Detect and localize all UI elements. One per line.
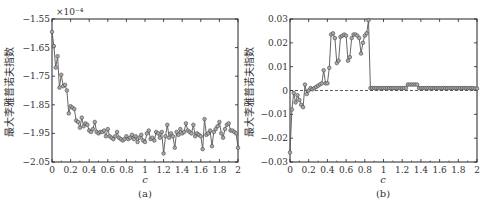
panel-a-caption: (a)	[138, 188, 152, 199]
panel-a-x-tick-label: 1.4	[175, 165, 190, 175]
panel-b-x-tick-label: 2	[474, 165, 480, 175]
panel-a-data-point	[156, 132, 160, 136]
panel-a-data-point	[184, 122, 188, 126]
panel-a-data-point	[158, 136, 162, 140]
panel-a-data-point	[177, 133, 181, 137]
panel-a-data-point	[179, 127, 183, 131]
panel-b-series	[288, 18, 479, 154]
panel-a-data-point	[199, 134, 203, 138]
panel-a-data-point	[76, 120, 80, 124]
panel-a-data-point	[219, 132, 223, 136]
panel-b-data-point	[346, 59, 350, 63]
panel-a-data-point	[190, 132, 194, 136]
panel-a-data-point	[54, 66, 58, 70]
panel-a-data-point	[93, 120, 97, 124]
panel-b-data-point	[320, 82, 324, 86]
panel-a-data-point	[192, 123, 196, 127]
panel-a-data-point	[73, 107, 77, 111]
panel-b-data-point	[301, 105, 305, 109]
panel-a-data-point	[134, 134, 138, 138]
panel-a-series	[50, 30, 240, 155]
panel-a-x-tick-label: 0.2	[63, 165, 77, 175]
panel-b-x-axis-label: c	[380, 174, 386, 185]
panel-b-data-point	[296, 93, 300, 97]
panel-a-data-point	[182, 130, 186, 134]
panel-a-data-point	[139, 133, 143, 137]
panel-a-x-tick-label: 1.2	[156, 165, 170, 175]
panel-a-data-point	[106, 127, 110, 131]
panel-b-data-point	[475, 87, 479, 91]
panel-b-data-point	[359, 52, 363, 56]
panel-a-data-point	[166, 123, 170, 127]
panel-b-x-tick-label: 1.2	[395, 165, 409, 175]
panel-a-x-tick-label: 0.8	[119, 165, 134, 175]
panel-b-x-tick-label: 0.2	[302, 165, 316, 175]
panel-b-data-point	[326, 82, 330, 86]
panel-b-plot-frame	[290, 19, 477, 162]
panel-a-data-point	[58, 86, 62, 90]
panel-a-data-point	[113, 134, 117, 138]
panel-a-data-point	[50, 30, 54, 34]
panel-b-data-point	[331, 32, 335, 36]
panel-b-data-point	[305, 92, 309, 96]
panel-a-y-tick-label: −1.75	[22, 71, 50, 81]
panel-b-data-point	[344, 34, 348, 38]
panel-b-data-point	[322, 68, 326, 72]
panel-a-x-tick-label: 0.6	[101, 165, 116, 175]
panel-a-data-point	[147, 129, 151, 133]
panel-a-data-point	[63, 83, 67, 87]
panel-b-x-tick-label: 0.6	[339, 165, 354, 175]
panel-b-caption: (b)	[376, 188, 390, 199]
panel-a-x-axis-label: c	[142, 174, 148, 185]
panel-a-data-point	[115, 130, 119, 134]
panel-a-data-point	[67, 112, 71, 116]
panel-a-data-point	[223, 127, 227, 131]
panel-a-series-line	[52, 32, 238, 153]
panel-a-y-tick-label: −1.55	[22, 14, 50, 24]
panel-a-data-point	[143, 140, 147, 144]
panel-a-data-point	[102, 129, 106, 133]
panel-b-data-point	[404, 86, 408, 90]
panel-b-data-point	[298, 98, 302, 102]
panel-b-data-point	[350, 36, 354, 40]
panel-a-data-point	[78, 126, 82, 130]
panel-a-data-point	[234, 132, 238, 136]
panel-b-y-tick-label: 0.03	[268, 14, 288, 24]
panel-a-y-tick-label: −1.85	[22, 100, 50, 110]
panel-a-data-point	[136, 140, 140, 144]
panel-b-x-tick-label: 0.8	[358, 165, 373, 175]
panel-a-data-point	[210, 144, 214, 148]
panel-a-data-point	[227, 122, 231, 126]
panel-a-data-point	[60, 73, 64, 77]
panel-b-data-point	[361, 41, 365, 45]
panel-a-data-point	[171, 134, 175, 138]
panel-b-x-tick-label: 0	[287, 165, 293, 175]
panel-a-data-point	[162, 152, 166, 156]
panel-b-x-tick-label: 1.4	[414, 165, 429, 175]
figure: 最大李雅普诺夫指数 ×10⁻⁴ 00.20.40.60.811.21.41.61…	[0, 0, 485, 201]
panel-b-data-point	[337, 59, 341, 63]
panel-b-x-tick-label: 1.8	[451, 165, 466, 175]
panel-a-x-tick-label: 1.8	[212, 165, 227, 175]
panel-a-data-point	[104, 134, 108, 138]
panel-a-data-point	[167, 136, 171, 140]
panel-b-data-point	[365, 32, 369, 36]
panel-b-y-tick-label: −0.03	[260, 157, 288, 167]
panel-b-data-point	[357, 36, 361, 40]
panel-b-y-axis-label: 最大李雅普诺夫指数	[243, 47, 255, 137]
panel-a-data-point	[201, 147, 205, 151]
panel-b-data-point	[333, 36, 337, 40]
panel-a-data-point	[52, 44, 56, 48]
panel-a-multiplier: ×10⁻⁴	[56, 7, 84, 17]
panel-b-data-point	[290, 108, 294, 112]
panel-a-y-tick-label: −1.95	[22, 128, 50, 138]
panel-a-data-point	[130, 133, 134, 137]
panel-b-data-point	[348, 55, 352, 59]
panel-b-x-tick-label: 1.6	[432, 165, 447, 175]
panel-b-y-tick-label: 0	[282, 86, 288, 96]
panel-a-x-tick-label: 1.6	[194, 165, 209, 175]
panel-a-x-tick-label: 0.4	[82, 165, 97, 175]
panel-a-data-point	[65, 89, 69, 93]
panel-b-data-point	[292, 91, 296, 95]
panel-b-y-tick-label: −0.02	[260, 133, 288, 143]
